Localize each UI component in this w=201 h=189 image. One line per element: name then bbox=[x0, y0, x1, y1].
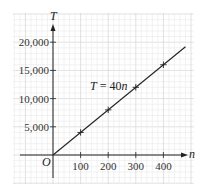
line-chart: T n O T = 40n 100200300400 5,00010,00015… bbox=[0, 0, 201, 189]
y-tick-label: 10,000 bbox=[19, 93, 50, 105]
equation-var-n: n bbox=[121, 79, 127, 93]
y-axis-label: T bbox=[50, 9, 58, 23]
x-tick-label: 200 bbox=[100, 160, 117, 172]
equation-label: T = 40n bbox=[90, 79, 127, 93]
y-tick-label: 20,000 bbox=[19, 36, 50, 48]
x-axis-label: n bbox=[189, 147, 195, 161]
origin-label: O bbox=[42, 155, 51, 169]
y-tick-label: 15,000 bbox=[19, 64, 50, 76]
y-tick-label: 5,000 bbox=[24, 121, 49, 133]
x-axis-arrow-icon bbox=[181, 153, 188, 158]
x-tick-label: 300 bbox=[128, 160, 145, 172]
axis-ticks bbox=[50, 42, 163, 158]
equation-mid: = 40 bbox=[97, 79, 122, 93]
x-tick-label: 400 bbox=[155, 160, 172, 172]
x-tick-label: 100 bbox=[72, 160, 89, 172]
y-tick-labels: 5,00010,00015,00020,000 bbox=[19, 36, 50, 133]
